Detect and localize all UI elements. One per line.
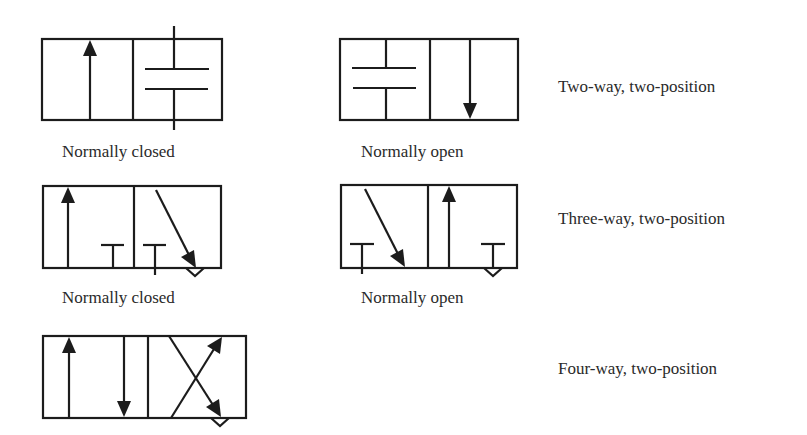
flow-arrow-up-icon: [61, 187, 75, 268]
caption-three-way-normally-open: Normally open: [361, 289, 463, 306]
blocked-port-icon: [101, 245, 124, 268]
flow-arrow-up-icon: [83, 40, 97, 120]
blocked-port-icon: [481, 244, 505, 268]
row-label-four-way-two-position: Four-way, two-position: [558, 360, 717, 377]
flow-arrow-down-icon: [117, 336, 131, 417]
exhaust-port-icon: [211, 418, 229, 426]
blocked-port-icon: [145, 26, 209, 130]
flow-arrow-up-icon: [442, 186, 456, 268]
exhaust-port-icon: [484, 268, 502, 276]
three-way-normally-closed-symbol: [43, 186, 221, 276]
flow-arrow-down-icon: [463, 39, 477, 119]
blocked-port-icon: [143, 245, 166, 275]
caption-three-way-normally-closed: Normally closed: [62, 289, 175, 306]
three-way-normally-open-symbol: [341, 185, 517, 276]
blocked-port-icon: [350, 244, 374, 274]
two-way-normally-closed-symbol: [42, 26, 222, 130]
flow-arrow-up-icon: [62, 337, 76, 418]
four-way-two-position-symbol: [43, 336, 246, 426]
exhaust-port-icon: [186, 268, 204, 276]
caption-two-way-normally-closed: Normally closed: [62, 143, 175, 160]
row-label-two-way-two-position: Two-way, two-position: [558, 78, 715, 95]
flow-arrow-diagonal-icon: [365, 189, 405, 267]
blocked-port-icon: [352, 39, 416, 120]
caption-two-way-normally-open: Normally open: [361, 143, 463, 160]
two-way-normally-open-symbol: [340, 39, 518, 120]
flow-arrow-diagonal-icon: [156, 190, 196, 268]
row-label-three-way-two-position: Three-way, two-position: [558, 210, 725, 227]
